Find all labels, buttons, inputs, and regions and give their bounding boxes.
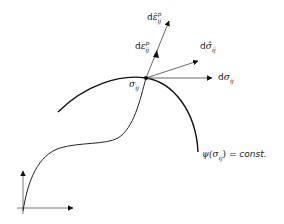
yield-surface-arc	[58, 77, 198, 152]
yield-surface-diagram	[0, 0, 284, 224]
d-eps-p-arrowhead	[153, 50, 159, 58]
coordinate-axes	[17, 171, 73, 214]
d-eps-hat-p-arrow	[146, 21, 169, 78]
d-sigma-hat-label: dσ̂ij	[200, 42, 216, 53]
stress-point-dot	[144, 76, 148, 80]
stress-point-label: σij	[129, 80, 139, 91]
d-eps-p-label: dεpij	[135, 40, 149, 53]
stress-path-curve	[23, 78, 146, 211]
d-eps-hat-p-label: dε̂pij	[147, 11, 161, 24]
d-sigma-label: dσij	[218, 73, 234, 84]
d-sigma-hat-arrow	[146, 61, 198, 78]
yield-surface-label: ψ(σij) = const.	[202, 150, 267, 161]
